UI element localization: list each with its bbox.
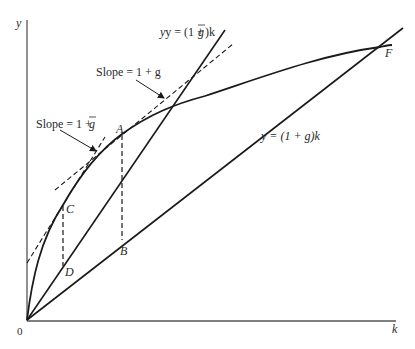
tangent-gbar-dashed [27, 137, 105, 263]
origin-label: 0 [17, 325, 23, 337]
steep-line-label-g: g [198, 25, 204, 39]
flat-line-label: y = (1 + g)k [260, 129, 321, 143]
arrow-slope-g [136, 80, 164, 98]
x-axis-label: k [392, 322, 398, 336]
slope-gbar-label: Slope = 1 + [36, 117, 92, 131]
slope-gbar-g: g [89, 117, 95, 131]
point-B-label: B [120, 244, 128, 258]
growth-diagram: y k 0 F yy = (1 + g )k y = (1 + g)k Slop… [0, 0, 415, 349]
slope-g-label: Slope = 1 + g [96, 65, 161, 79]
point-D-label: D [64, 265, 74, 279]
F-label: F [384, 46, 393, 60]
point-A-label: A [115, 122, 124, 136]
point-C-label: C [66, 202, 75, 216]
arrow-slope-gbar [60, 130, 96, 151]
y-axis-label: y [15, 16, 22, 30]
steep-line-label-suffix: )k [205, 25, 215, 39]
production-function-curve [27, 45, 392, 320]
